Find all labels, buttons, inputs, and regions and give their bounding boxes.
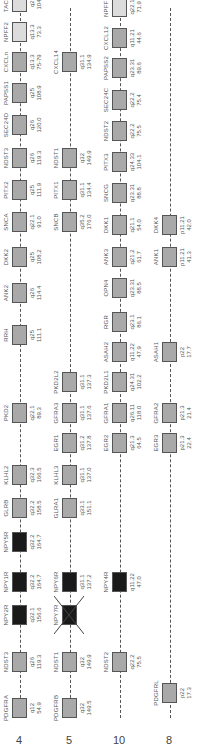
gene-box [12, 325, 27, 345]
gene-box [62, 605, 77, 625]
gene-location: p2217.3 [179, 671, 193, 715]
position-mb: 149.5 [86, 686, 93, 730]
cyto-band: q32.3 [29, 453, 36, 497]
gene-location: q31.1137.2 [79, 560, 93, 604]
gene-box [12, 572, 27, 592]
gene-location: q32149.9 [79, 136, 93, 180]
gene-name: NPY1R [3, 560, 9, 604]
gene-box [112, 342, 127, 362]
gene-box [12, 180, 27, 200]
gene-box [62, 572, 77, 592]
position-mb: 149.9 [86, 136, 93, 180]
gene-location: p11.2142.0 [179, 203, 193, 247]
cyto-band: q24 [29, 0, 36, 24]
chromosome-label: 5 [59, 734, 79, 746]
position-mb: 164.7 [36, 560, 43, 604]
cyto-band: q12 [29, 686, 36, 730]
cyto-band: p11.21 [179, 203, 186, 247]
gene-name: PDGFRA [3, 686, 9, 730]
position-mb: 149.9 [86, 640, 93, 684]
cyto-band: q31.1 [79, 560, 86, 604]
cyto-band: q32 [79, 136, 86, 180]
gene-box [112, 90, 127, 110]
gene-box [112, 372, 127, 392]
cyto-band: q32 [79, 640, 86, 684]
gene-box [12, 532, 27, 552]
gene-box [112, 247, 127, 267]
gene-location: p2217.7 [179, 330, 193, 374]
cyto-band: q32.2 [29, 560, 36, 604]
gene-box [12, 22, 27, 42]
gene-box [12, 148, 27, 168]
gene-box [112, 572, 127, 592]
gene-box [162, 403, 177, 423]
gene-box [112, 278, 127, 298]
gene-name: NDST1 [53, 136, 59, 180]
gene-location: q24104.9 [29, 0, 43, 24]
gene-name: ASAH1 [153, 330, 159, 374]
gene-box [62, 403, 77, 423]
gene-box [12, 403, 27, 423]
gene-box [112, 652, 127, 672]
gene-box [62, 148, 77, 168]
chromosome-label: 4 [9, 734, 29, 746]
gene-box [12, 465, 27, 485]
gene-box [112, 433, 127, 453]
gene-box [112, 183, 127, 203]
position-mb: 75.5 [136, 640, 143, 684]
gene-name: PDGFRB [53, 686, 59, 730]
gene-box [12, 283, 27, 303]
gene-box [12, 212, 27, 232]
gene-box [162, 683, 177, 703]
gene-box [162, 215, 177, 235]
gene-box [62, 652, 77, 672]
gene-box [112, 152, 127, 172]
gene-box [12, 698, 27, 718]
gene-name: NDST1 [53, 640, 59, 684]
chromosome-label: 8 [159, 734, 179, 746]
gene-name: NDST3 [3, 640, 9, 684]
chromosome-label: 10 [109, 734, 129, 746]
gene-box [12, 115, 27, 135]
gene-name: KLHL2 [3, 453, 9, 497]
gene-box [12, 652, 27, 672]
gene-box [62, 465, 77, 485]
position-mb: 42.0 [186, 203, 193, 247]
chromosome-line [170, 8, 171, 718]
position-mb: 134.9 [86, 40, 93, 84]
cyto-band: p22 [179, 671, 186, 715]
position-mb: 21.4 [186, 391, 193, 435]
synteny-diagram: 4PDGFRAq1254.9NDST3q26119.3NPY2Rq32.1156… [0, 0, 199, 748]
gene-box [112, 215, 127, 235]
gene-location: q32149.5 [79, 686, 93, 730]
position-mb: 17.3 [186, 671, 193, 715]
gene-location: q25111.1 [29, 313, 43, 357]
gene-name: RRH [3, 313, 9, 357]
cyto-band: q26 [29, 640, 36, 684]
position-mb: 71.9 [136, 0, 143, 29]
gene-box [12, 52, 27, 72]
gene-box [112, 0, 127, 17]
gene-name: PDGFRL [153, 671, 159, 715]
gene-box [112, 121, 127, 141]
position-mb: 119.3 [36, 640, 43, 684]
cyto-band: q25 [29, 313, 36, 357]
gene-location: q32.3166.5 [29, 453, 43, 497]
gene-name: PKD2L2 [53, 360, 59, 404]
gene-box [112, 28, 127, 48]
gene-box [112, 58, 127, 78]
gene-box [112, 403, 127, 423]
gene-name: GFRA2 [153, 391, 159, 435]
gene-name: DKK4 [153, 203, 159, 247]
gene-box [12, 247, 27, 267]
gene-location: q22.171.9 [129, 0, 143, 29]
cyto-band: q22.2 [129, 640, 136, 684]
position-mb: 137.2 [86, 560, 93, 604]
gene-name: PKD2 [3, 391, 9, 435]
chromosome-line [120, 8, 121, 718]
position-mb: 89.3 [36, 391, 43, 435]
position-mb: 54.9 [36, 686, 43, 730]
cyto-band: q32 [79, 686, 86, 730]
position-mb: 111.1 [36, 313, 43, 357]
gene-location: q11.2247.0 [129, 560, 143, 604]
